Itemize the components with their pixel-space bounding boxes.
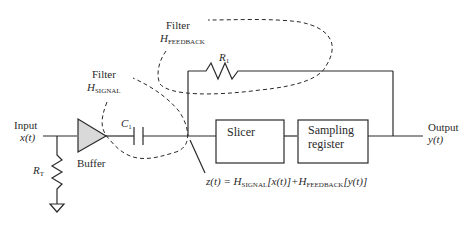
filter-feedback-title: Filter	[166, 19, 190, 31]
input-signal: x(t)	[19, 131, 36, 144]
z-equation: z(t) = HSIGNAL[x(t)]+HFEEDBACK[y(t)]	[205, 175, 367, 189]
filter-signal-title: Filter	[92, 68, 116, 80]
filter-feedback-symbol: HFEEDBACK	[159, 32, 205, 46]
input-label: Input	[14, 119, 37, 131]
filter-signal-symbol: HSIGNAL	[86, 81, 121, 95]
output-signal: y(t)	[427, 133, 444, 146]
buffer-label: Buffer	[77, 157, 106, 169]
sampling-label-line2: register	[308, 137, 344, 151]
rt-resistor	[52, 136, 62, 204]
slicer-label: Slicer	[227, 125, 255, 139]
ground-icon	[50, 204, 64, 212]
circuit-diagram: Input x(t) Buffer RT C1 R1 Filter HSIGNA…	[0, 0, 474, 225]
output-label: Output	[428, 121, 459, 133]
r1-label: R1	[218, 51, 230, 65]
sampling-label-line1: Sampling	[308, 123, 354, 137]
rt-label: RT	[32, 164, 45, 178]
r1-resistor	[188, 63, 393, 79]
c1-label: C1	[121, 117, 132, 131]
